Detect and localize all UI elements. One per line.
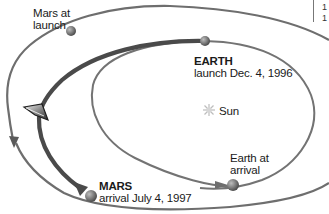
mars-orbit <box>7 6 329 209</box>
earth-at-arrival-line2: arrival <box>230 164 269 176</box>
mars-at-launch-line2: launch <box>33 19 70 31</box>
mars-arrival-title: MARS <box>99 180 192 192</box>
earth-launch-label: EARTH launch Dec. 4, 1996 <box>194 55 293 79</box>
corner-text-1: 1 <box>322 2 327 12</box>
sun-icon <box>203 104 215 116</box>
transfer-trajectory <box>39 41 205 196</box>
corner-text-2: 1 <box>322 13 327 23</box>
sun-label-text: Sun <box>219 105 239 117</box>
mars-at-launch-line1: Mars at <box>33 7 70 19</box>
earth-at-arrival-planet <box>227 179 239 191</box>
mars-arrival-label: MARS arrival July 4, 1997 <box>99 180 192 204</box>
earth-at-launch-planet <box>200 36 210 46</box>
spacecraft-icon <box>24 104 48 120</box>
earth-launch-title: EARTH <box>194 55 293 67</box>
earth-at-arrival-label: Earth at arrival <box>230 152 269 176</box>
corner-divider <box>313 0 314 22</box>
sun-label: Sun <box>219 105 239 117</box>
mars-at-launch-label: Mars at launch <box>33 7 70 31</box>
mars-at-arrival-planet <box>85 190 97 202</box>
earth-at-arrival-line1: Earth at <box>230 152 269 164</box>
mars-arrival-subtitle: arrival July 4, 1997 <box>99 192 192 204</box>
earth-launch-subtitle: launch Dec. 4, 1996 <box>194 67 293 79</box>
